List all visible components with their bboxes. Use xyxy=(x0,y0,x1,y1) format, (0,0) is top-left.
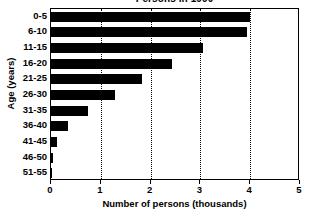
y-axis-tick-label: 41-45 xyxy=(3,136,47,146)
bar xyxy=(51,168,52,178)
bar xyxy=(51,12,250,22)
x-axis-tick-label: 2 xyxy=(138,184,162,195)
bar-row xyxy=(51,87,300,103)
bar-row xyxy=(51,150,300,166)
x-axis-tick-label: 0 xyxy=(38,184,62,195)
y-axis-tick-label: 21-25 xyxy=(3,73,47,83)
y-axis-tick-label: 51-55 xyxy=(3,167,47,177)
bar-row xyxy=(51,56,300,72)
bar-row xyxy=(51,40,300,56)
y-axis-tick-label: 36-40 xyxy=(3,120,47,130)
bar xyxy=(51,153,53,163)
chart-title: Persons in 1990 xyxy=(50,0,299,4)
y-axis-tick-label: 6-10 xyxy=(3,26,47,36)
bar-row xyxy=(51,103,300,119)
bar xyxy=(51,137,57,147)
bar xyxy=(51,121,68,131)
bar xyxy=(51,27,247,37)
bar xyxy=(51,90,115,100)
y-axis-tick-label: 11-15 xyxy=(3,42,47,52)
x-axis-title: Number of persons (thousands) xyxy=(40,198,309,209)
y-axis-tick-label: 16-20 xyxy=(3,58,47,68)
plot-area xyxy=(50,8,299,180)
y-axis-tick-label: 26-30 xyxy=(3,89,47,99)
chart-screenshot: Persons in 1990 Age (years) 0-56-1011-15… xyxy=(0,0,313,214)
x-axis-tick-label: 1 xyxy=(88,184,112,195)
x-axis-ticks: 012345 xyxy=(50,180,299,194)
bar-row xyxy=(51,134,300,150)
x-axis-tick-label: 3 xyxy=(187,184,211,195)
bar-row xyxy=(51,25,300,41)
y-axis-tick-label: 0-5 xyxy=(3,11,47,21)
bar xyxy=(51,106,88,116)
bar-row xyxy=(51,72,300,88)
x-axis-tick-label: 5 xyxy=(287,184,311,195)
bar-row xyxy=(51,165,300,181)
bar-row xyxy=(51,9,300,25)
y-axis-tick-label: 31-35 xyxy=(3,105,47,115)
bar-series xyxy=(51,9,298,179)
bar xyxy=(51,59,172,69)
bar xyxy=(51,43,203,53)
y-axis-tick-label: 46-50 xyxy=(3,152,47,162)
bar xyxy=(51,74,142,84)
x-axis-tick-label: 4 xyxy=(237,184,261,195)
bar-row xyxy=(51,118,300,134)
y-axis-tick-labels: 0-56-1011-1516-2021-2526-3031-3536-4041-… xyxy=(0,8,47,180)
